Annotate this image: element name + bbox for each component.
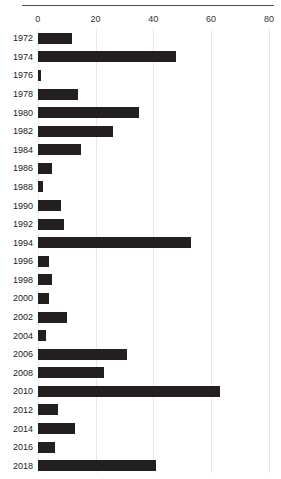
x-tick-label-20: 20 <box>90 14 100 24</box>
y-tick-label-2012: 2012 <box>0 405 33 415</box>
bar-row: 1974 <box>0 48 281 67</box>
bar-2016 <box>38 442 55 453</box>
x-tick-label-60: 60 <box>206 14 216 24</box>
bar-row: 1996 <box>0 252 281 271</box>
y-tick-label-1984: 1984 <box>0 145 33 155</box>
y-tick-label-2004: 2004 <box>0 331 33 341</box>
y-tick-label-1998: 1998 <box>0 275 33 285</box>
bar-row: 1998 <box>0 271 281 290</box>
y-tick-label-2000: 2000 <box>0 293 33 303</box>
bar-1988 <box>38 181 44 192</box>
bar-2014 <box>38 423 76 434</box>
bar-chart: 0 20 40 60 80 19721974197619781980198219… <box>0 0 281 479</box>
bar-row: 1992 <box>0 215 281 234</box>
bar-1978 <box>38 89 78 100</box>
bar-2008 <box>38 367 104 378</box>
bar-1972 <box>38 33 73 44</box>
y-tick-label-2006: 2006 <box>0 349 33 359</box>
bar-row: 1982 <box>0 122 281 141</box>
y-tick-label-2008: 2008 <box>0 368 33 378</box>
bar-row: 1980 <box>0 103 281 122</box>
x-tick-label-40: 40 <box>148 14 158 24</box>
bar-1976 <box>38 70 41 81</box>
y-tick-label-1986: 1986 <box>0 163 33 173</box>
bar-row: 2018 <box>0 456 281 475</box>
y-tick-label-2018: 2018 <box>0 461 33 471</box>
y-tick-label-1978: 1978 <box>0 89 33 99</box>
y-tick-label-2014: 2014 <box>0 424 33 434</box>
bar-row: 1990 <box>0 196 281 215</box>
bar-2002 <box>38 312 67 323</box>
bar-row: 1972 <box>0 29 281 48</box>
x-axis-tick-labels: 0 20 40 60 80 <box>0 14 281 28</box>
bar-2012 <box>38 404 58 415</box>
bar-row: 2012 <box>0 401 281 420</box>
bar-row: 2014 <box>0 419 281 438</box>
bar-row: 1986 <box>0 159 281 178</box>
y-tick-label-1994: 1994 <box>0 238 33 248</box>
bar-2018 <box>38 460 156 471</box>
x-tick-label-80: 80 <box>264 14 274 24</box>
y-tick-label-1992: 1992 <box>0 219 33 229</box>
y-tick-label-1974: 1974 <box>0 52 33 62</box>
bar-row: 2008 <box>0 364 281 383</box>
y-tick-label-2010: 2010 <box>0 386 33 396</box>
bar-row: 2006 <box>0 345 281 364</box>
bar-2006 <box>38 349 128 360</box>
bar-row: 2016 <box>0 438 281 457</box>
bar-1994 <box>38 237 191 248</box>
bar-1974 <box>38 51 177 62</box>
bar-row: 2010 <box>0 382 281 401</box>
bar-1996 <box>38 256 50 267</box>
x-tick-label-0: 0 <box>35 14 40 24</box>
y-tick-label-1976: 1976 <box>0 70 33 80</box>
bar-1984 <box>38 144 81 155</box>
bar-1998 <box>38 274 52 285</box>
y-tick-label-2016: 2016 <box>0 442 33 452</box>
y-tick-label-1980: 1980 <box>0 108 33 118</box>
bar-2010 <box>38 386 220 397</box>
plot-area: 1972197419761978198019821984198619881990… <box>0 29 281 475</box>
bar-row: 1978 <box>0 85 281 104</box>
bar-1982 <box>38 126 113 137</box>
bar-1992 <box>38 219 64 230</box>
y-tick-label-1990: 1990 <box>0 201 33 211</box>
bar-row: 1988 <box>0 178 281 197</box>
bar-1980 <box>38 107 139 118</box>
bar-1986 <box>38 163 52 174</box>
y-tick-label-1972: 1972 <box>0 33 33 43</box>
bar-row: 1984 <box>0 141 281 160</box>
y-tick-label-2002: 2002 <box>0 312 33 322</box>
y-tick-label-1988: 1988 <box>0 182 33 192</box>
bar-2004 <box>38 330 47 341</box>
bar-row: 2000 <box>0 289 281 308</box>
bar-row: 1976 <box>0 66 281 85</box>
bar-2000 <box>38 293 50 304</box>
y-tick-label-1982: 1982 <box>0 126 33 136</box>
bar-1990 <box>38 200 61 211</box>
y-tick-label-1996: 1996 <box>0 256 33 266</box>
bar-row: 1994 <box>0 233 281 252</box>
top-divider-rule <box>22 5 274 6</box>
bar-row: 2002 <box>0 308 281 327</box>
bar-row: 2004 <box>0 326 281 345</box>
